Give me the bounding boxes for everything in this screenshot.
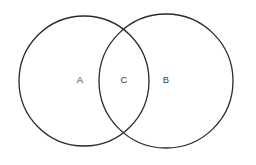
region-label-c: C <box>120 74 127 85</box>
region-label-b: B <box>163 74 170 85</box>
set-a-circle <box>19 16 149 146</box>
venn-diagram-canvas: A C B <box>0 0 256 165</box>
region-label-a: A <box>77 74 84 85</box>
venn-diagram-svg: A C B <box>0 0 256 165</box>
